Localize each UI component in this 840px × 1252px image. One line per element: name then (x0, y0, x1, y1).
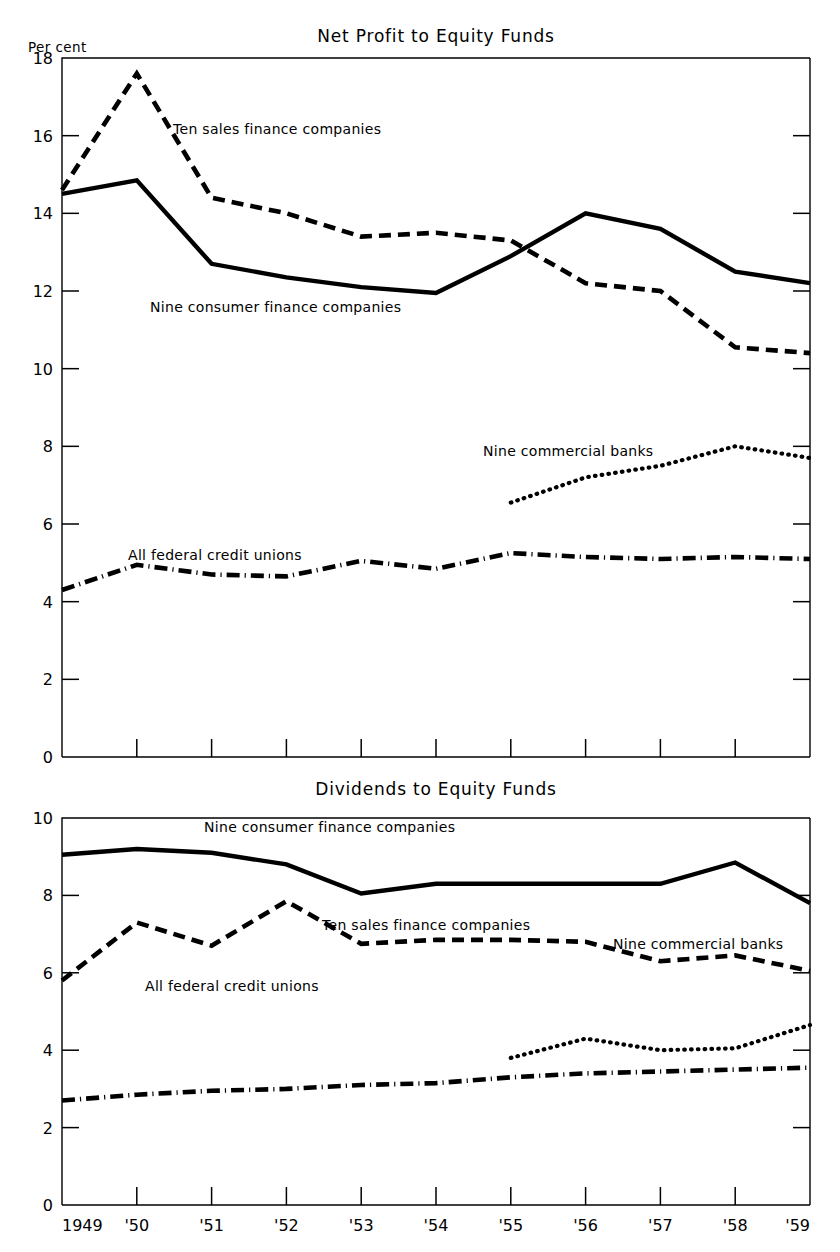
chart-bottom-x-axis-labels: 1949'50'51'52'53'54'55'56'57'58'59 (62, 1216, 810, 1235)
chart-dividends-to-equity-funds: Dividends to Equity Funds 0246810 1949'5… (0, 770, 840, 1252)
x-tick-label: '57 (648, 1216, 673, 1235)
y-tick-label: 8 (43, 437, 53, 456)
x-tick-label: '55 (498, 1216, 523, 1235)
x-tick-label: '58 (723, 1216, 748, 1235)
y-tick-label: 8 (43, 886, 53, 905)
plot-frame-top-left (62, 818, 810, 1205)
chart-bottom-series-annotations: Nine consumer finance companiesTen sales… (145, 819, 783, 994)
x-tick-label: '51 (199, 1216, 224, 1235)
x-tick-label: '59 (785, 1216, 810, 1235)
chart-bottom-series-group (62, 849, 810, 1101)
chart-top-title: Net Profit to Equity Funds (317, 26, 554, 46)
figure-page: Net Profit to Equity Funds Per cent 0246… (0, 0, 840, 1252)
series-line-nine-commercial-banks (511, 1025, 810, 1058)
series-line-nine-consumer-finance-companies (62, 180, 810, 293)
chart-top-x-axis-ticks (137, 739, 810, 757)
chart-top-canvas: Net Profit to Equity Funds Per cent 0246… (0, 0, 840, 790)
y-tick-label: 10 (33, 360, 53, 379)
chart-net-profit-to-equity-funds: Net Profit to Equity Funds Per cent 0246… (0, 0, 840, 790)
series-label-all-federal-credit-unions: All federal credit unions (128, 547, 302, 563)
series-line-nine-consumer-finance-companies (62, 849, 810, 903)
plot-frame-top-left (62, 58, 810, 757)
y-tick-label: 0 (43, 748, 53, 767)
y-tick-label: 6 (43, 515, 53, 534)
y-tick-label: 12 (33, 282, 53, 301)
chart-bottom-x-axis-ticks (137, 1187, 810, 1205)
chart-top-frame (62, 58, 810, 757)
y-tick-label: 4 (43, 1041, 53, 1060)
y-tick-label: 2 (43, 1119, 53, 1138)
x-tick-label: '53 (349, 1216, 374, 1235)
y-tick-label: 6 (43, 964, 53, 983)
chart-bottom-frame (62, 818, 810, 1205)
y-tick-label: 18 (33, 49, 53, 68)
y-tick-label: 2 (43, 670, 53, 689)
y-tick-label: 0 (43, 1196, 53, 1215)
y-tick-label: 10 (33, 809, 53, 828)
x-tick-label: '54 (424, 1216, 449, 1235)
chart-bottom-title: Dividends to Equity Funds (315, 779, 556, 799)
x-tick-label: '52 (274, 1216, 299, 1235)
y-tick-label: 14 (33, 204, 53, 223)
x-tick-label: 1949 (62, 1216, 103, 1235)
chart-top-series-group (62, 74, 810, 591)
series-line-all-federal-credit-unions (62, 1068, 810, 1101)
series-label-ten-sales-finance-companies: Ten sales finance companies (172, 121, 381, 137)
series-label-nine-consumer-finance-companies: Nine consumer finance companies (204, 819, 455, 835)
chart-bottom-y-axis: 0246810 (33, 809, 810, 1215)
series-label-all-federal-credit-unions: All federal credit unions (145, 978, 319, 994)
chart-top-y-axis: 024681012141618 (33, 49, 810, 767)
y-tick-label: 16 (33, 127, 53, 146)
series-label-nine-commercial-banks: Nine commercial banks (483, 443, 653, 459)
series-label-nine-commercial-banks: Nine commercial banks (613, 936, 783, 952)
series-label-ten-sales-finance-companies: Ten sales finance companies (321, 917, 530, 933)
x-tick-label: '50 (124, 1216, 149, 1235)
y-tick-label: 4 (43, 593, 53, 612)
chart-bottom-canvas: Dividends to Equity Funds 0246810 1949'5… (0, 770, 840, 1252)
series-label-nine-consumer-finance-companies: Nine consumer finance companies (150, 299, 401, 315)
x-tick-label: '56 (573, 1216, 598, 1235)
